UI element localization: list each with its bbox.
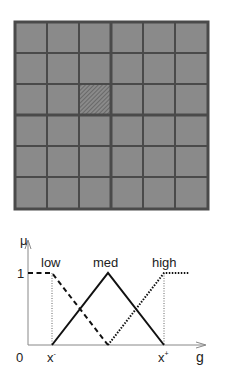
series-label-med: med: [93, 255, 118, 270]
axis-label-mu: μ: [20, 233, 28, 248]
series-med: [52, 273, 164, 345]
series-high: [108, 273, 189, 345]
axis-label-g: g: [196, 349, 204, 365]
highlighted-cell: [79, 84, 111, 115]
y-tick-zero: 0: [16, 350, 23, 365]
guide-lines: [52, 273, 164, 345]
x-tick-minus: x-: [47, 350, 57, 365]
x-tick-plus: x+: [158, 350, 169, 365]
series-label-high: high: [152, 255, 177, 270]
series-low: [28, 273, 108, 345]
membership-chart: μ low med high 1 0 x- x+ g: [0, 215, 225, 381]
grid-figure: [0, 0, 225, 215]
series-label-low: low: [41, 255, 61, 270]
y-tick-one: 1: [17, 266, 24, 281]
